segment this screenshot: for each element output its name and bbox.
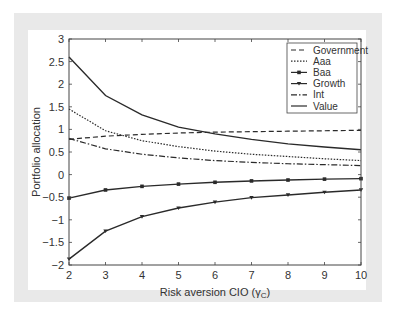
- series-growth: [69, 190, 361, 259]
- legend-label: Growth: [313, 78, 345, 89]
- x-tick-label: 2: [66, 269, 72, 281]
- legend-label: Aaa: [313, 56, 331, 67]
- y-tick-label: 3: [58, 33, 64, 45]
- legend-label: Government: [313, 45, 368, 56]
- marker-square: [323, 177, 327, 181]
- legend-marker-square: [297, 71, 301, 75]
- y-tick-label: −0.5: [42, 191, 64, 203]
- x-tick-label: 3: [102, 269, 108, 281]
- marker-square: [104, 188, 108, 192]
- y-axis-title: Portfolio allocation: [30, 107, 42, 197]
- line-chart: 2345678910−2−1.5−1−0.500.511.522.53 Gove…: [0, 0, 396, 321]
- marker-square: [140, 185, 144, 189]
- x-tick-label: 7: [248, 269, 254, 281]
- y-tick-label: −1: [51, 214, 64, 226]
- y-tick-label: −1.5: [42, 236, 64, 248]
- legend-label: Int: [313, 89, 324, 100]
- x-tick-label: 9: [321, 269, 327, 281]
- y-tick-label: 1: [58, 123, 64, 135]
- x-tick-label: 6: [212, 269, 218, 281]
- marker-square: [286, 178, 290, 182]
- x-tick-label: 4: [139, 269, 145, 281]
- x-axis-title: Risk aversion CIO (γC): [160, 286, 270, 300]
- marker-square: [213, 180, 217, 184]
- legend: GovernmentAaaBaaGrowthIntValue: [287, 43, 368, 113]
- y-tick-label: 0: [58, 169, 64, 181]
- y-tick-label: 2: [58, 78, 64, 90]
- x-tick-label: 10: [355, 269, 367, 281]
- legend-label: Baa: [313, 67, 331, 78]
- y-tick-label: −2: [51, 259, 64, 271]
- x-tick-label: 5: [175, 269, 181, 281]
- y-tick-label: 2.5: [49, 56, 64, 68]
- y-tick-label: 0.5: [49, 146, 64, 158]
- y-tick-label: 1.5: [49, 101, 64, 113]
- x-tick-label: 8: [285, 269, 291, 281]
- marker-square: [250, 179, 254, 183]
- legend-label: Value: [313, 101, 338, 112]
- marker-square: [177, 182, 181, 186]
- series-aaa: [69, 109, 361, 161]
- series-int: [69, 138, 361, 165]
- series-government: [69, 130, 361, 139]
